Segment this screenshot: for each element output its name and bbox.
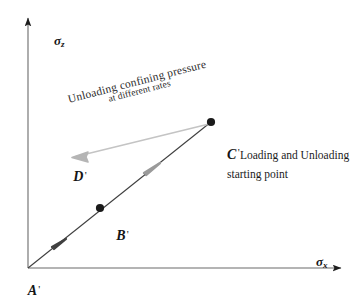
stress-path-figure: σz σx A' B' D' C'Loading and Unloading s… [0, 0, 360, 298]
point-label-D: D' [58, 152, 87, 202]
point-label-A-prime: ' [37, 283, 40, 295]
starting-point-callout: C'Loading and Unloading starting point [211, 126, 349, 202]
x-axis-symbol: σ [316, 254, 323, 269]
point-label-A: A' [13, 266, 41, 298]
point-label-B-letter: B [116, 228, 126, 243]
point-label-A-letter: A [28, 283, 38, 298]
point-label-C-letter: C [227, 147, 237, 162]
y-axis-symbol: σ [54, 33, 61, 48]
starting-point-text-line1: Loading and Unloading [240, 149, 349, 161]
point-label-D-prime: ' [84, 169, 87, 181]
x-axis-label: σx [303, 239, 328, 286]
x-axis-subscript: x [323, 260, 328, 270]
loading-path-arrow-upper [144, 163, 160, 175]
point-label-D-letter: D [73, 169, 83, 184]
unloading-path-line [74, 124, 209, 157]
y-axis-label: σz [41, 18, 65, 65]
point-label-B-prime: ' [126, 228, 129, 240]
point-label-B: B' [101, 211, 129, 261]
point-dot-C [207, 118, 215, 126]
starting-point-text-line2: starting point [227, 168, 288, 180]
y-axis-subscript: z [61, 39, 65, 49]
loading-path-arrow-lower [52, 239, 66, 249]
point-label-C: C' [227, 147, 240, 162]
